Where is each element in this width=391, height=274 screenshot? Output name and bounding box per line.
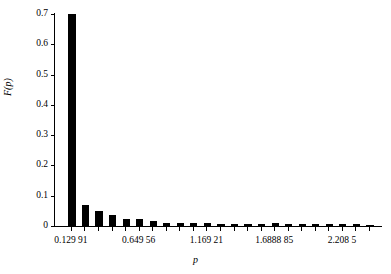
x-tick-mark bbox=[288, 227, 289, 231]
y-tick-label: 0 bbox=[43, 219, 48, 232]
bar bbox=[163, 223, 170, 226]
x-tick-mark bbox=[315, 227, 316, 231]
bar bbox=[177, 223, 184, 226]
x-tick-mark bbox=[206, 227, 207, 231]
y-tick-mark bbox=[51, 105, 55, 106]
bar bbox=[150, 221, 157, 226]
bar bbox=[326, 224, 333, 226]
bar bbox=[95, 211, 102, 226]
x-tick-mark bbox=[328, 227, 329, 231]
bar bbox=[272, 223, 279, 226]
x-tick-mark bbox=[166, 227, 167, 231]
bar bbox=[339, 224, 346, 226]
bar bbox=[366, 225, 373, 227]
bar bbox=[244, 224, 251, 226]
x-tick-mark bbox=[179, 227, 180, 231]
chart-figure: F(p) 00.10.20.30.40.50.60.7 0.129 910.64… bbox=[0, 0, 391, 274]
bar bbox=[136, 219, 143, 226]
y-tick-label: 0.6 bbox=[36, 37, 48, 50]
x-tick-mark bbox=[139, 227, 140, 231]
x-tick-label: 1.6888 85 bbox=[255, 234, 293, 247]
bar bbox=[312, 224, 319, 226]
x-tick-mark bbox=[355, 227, 356, 231]
x-tick-mark bbox=[71, 227, 72, 231]
x-tick-mark bbox=[261, 227, 262, 231]
x-tick-label: 1.169 21 bbox=[190, 234, 223, 247]
x-axis-label: p bbox=[0, 254, 391, 265]
x-tick-mark bbox=[220, 227, 221, 231]
y-axis-label-text: F(p) bbox=[2, 78, 13, 96]
y-tick-label: 0.3 bbox=[36, 128, 48, 141]
y-tick-mark bbox=[51, 196, 55, 197]
bar bbox=[190, 223, 197, 226]
x-tick-mark bbox=[84, 227, 85, 231]
x-tick-mark bbox=[152, 227, 153, 231]
y-axis-label: F(p) bbox=[2, 78, 13, 96]
x-tick-label: 2.208 5 bbox=[328, 234, 357, 247]
bar bbox=[204, 223, 211, 226]
y-tick-mark bbox=[51, 135, 55, 136]
bar bbox=[299, 224, 306, 226]
x-axis-ticks: 0.129 910.649 561.169 211.6888 852.208 5 bbox=[54, 227, 382, 257]
bar bbox=[68, 14, 75, 226]
bar bbox=[353, 224, 360, 226]
x-tick-mark bbox=[98, 227, 99, 231]
x-axis-label-text: p bbox=[193, 254, 198, 265]
y-tick-mark bbox=[51, 75, 55, 76]
x-tick-mark bbox=[193, 227, 194, 231]
y-tick-label: 0.5 bbox=[36, 68, 48, 81]
plot-area: 00.10.20.30.40.50.60.7 bbox=[55, 14, 377, 226]
x-tick-label: 0.649 56 bbox=[122, 234, 155, 247]
x-tick-mark bbox=[369, 227, 370, 231]
y-tick-mark bbox=[51, 44, 55, 45]
x-tick-mark bbox=[112, 227, 113, 231]
x-tick-mark bbox=[274, 227, 275, 231]
bar bbox=[285, 224, 292, 226]
bar bbox=[258, 224, 265, 226]
bar bbox=[123, 219, 130, 226]
y-tick-label: 0.2 bbox=[36, 158, 48, 171]
y-tick-mark bbox=[51, 14, 55, 15]
x-tick-mark bbox=[301, 227, 302, 231]
bar bbox=[217, 224, 224, 226]
x-tick-mark bbox=[247, 227, 248, 231]
bar bbox=[82, 205, 89, 226]
x-tick-label: 0.129 91 bbox=[54, 234, 87, 247]
y-tick-label: 0.4 bbox=[36, 98, 48, 111]
x-tick-mark bbox=[125, 227, 126, 231]
bar bbox=[109, 215, 116, 227]
x-tick-mark bbox=[342, 227, 343, 231]
x-tick-mark bbox=[234, 227, 235, 231]
bar bbox=[231, 224, 238, 226]
y-tick-label: 0.1 bbox=[36, 189, 48, 202]
y-tick-mark bbox=[51, 165, 55, 166]
y-tick-label: 0.7 bbox=[36, 7, 48, 20]
